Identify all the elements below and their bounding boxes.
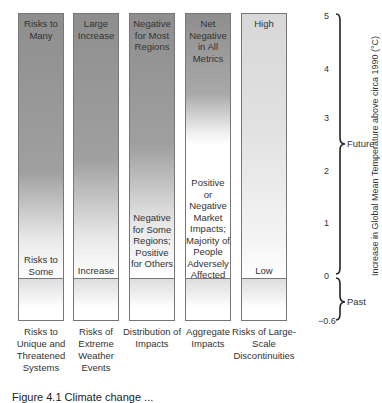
tick-2: 2 [324,166,329,176]
figure-caption: Figure 4.1 Climate change ... [12,391,153,403]
category-label: Aggregate Impacts [176,326,240,350]
low-label: Risks to Some [19,254,63,277]
column-discontinuities: High Low [241,13,287,321]
past-label: Past [347,296,366,307]
tick-3: 3 [324,113,329,123]
future-gradient [19,14,63,278]
top-label: Net Negative in All Metrics [186,18,230,64]
category-label: Distribution of Impacts [120,326,184,350]
past-region [74,278,118,320]
tick-4: 4 [324,64,329,74]
tick-1: 1 [324,218,329,228]
top-label: Risks to Many [19,18,63,41]
past-region [19,278,63,320]
tick-0: 0 [324,271,329,281]
low-label: Increase [74,265,118,277]
category-label: Risks of Large-Scale Discontinuities [232,326,296,362]
future-gradient [242,14,286,278]
past-region [242,278,286,320]
low-label: Positive or Negative Market Impacts; Maj… [186,177,230,281]
tick-5: 5 [324,11,329,21]
top-label: High [242,18,286,30]
future-gradient [74,14,118,278]
top-label: Large Increase [74,18,118,41]
past-region [186,278,230,320]
column-unique-systems: Risks to Many Risks to Some [18,13,64,321]
top-label: Negative for Most Regions [130,18,174,53]
column-distribution: Negative for Most Regions Negative for S… [129,13,175,321]
past-region [130,278,174,320]
low-label: Low [242,265,286,277]
low-label: Negative for Some Regions; Positive for … [130,212,174,270]
brace-icon [334,12,348,324]
y-axis-label: Increase in Global Mean Temperature abov… [370,16,380,276]
column-aggregate: Net Negative in All Metrics Positive or … [185,13,231,321]
column-extreme-weather: Large Increase Increase [73,13,119,321]
category-label: Risks of Extreme Weather Events [64,326,128,374]
